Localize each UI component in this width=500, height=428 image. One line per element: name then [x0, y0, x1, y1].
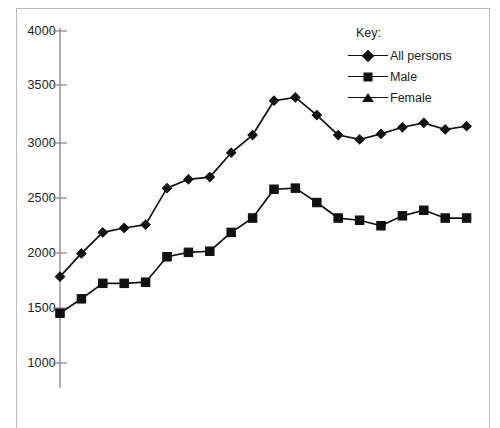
data-point-marker — [56, 309, 64, 317]
data-point-marker — [355, 216, 363, 224]
data-point-marker — [184, 175, 193, 184]
data-point-marker — [441, 214, 449, 222]
data-point-marker — [99, 279, 107, 287]
data-point-marker — [248, 214, 256, 222]
legend-item-label: Female — [390, 91, 432, 105]
data-point-marker — [420, 206, 428, 214]
legend-item-label: All persons — [390, 49, 452, 63]
data-point-marker — [184, 248, 192, 256]
data-point-marker — [270, 185, 278, 193]
data-point-marker — [141, 278, 149, 286]
legend-item-all-persons[interactable]: All persons — [346, 46, 486, 65]
data-point-marker — [227, 228, 235, 236]
data-point-marker — [441, 125, 450, 134]
legend-item-label: Male — [390, 70, 417, 84]
series-line-male — [60, 188, 467, 313]
data-point-marker — [334, 214, 342, 222]
data-point-marker — [206, 247, 214, 255]
data-point-marker — [313, 198, 321, 206]
data-series-layer — [55, 93, 471, 318]
data-point-marker — [291, 184, 299, 192]
data-point-marker — [462, 122, 471, 131]
series-line-all-persons — [60, 97, 467, 276]
legend: Key: All persons Male Female — [346, 26, 486, 109]
data-point-marker — [141, 220, 150, 229]
data-point-marker — [120, 223, 129, 232]
legend-item-male[interactable]: Male — [346, 67, 486, 86]
data-point-marker — [462, 214, 470, 222]
data-point-marker — [163, 253, 171, 261]
data-point-marker — [398, 123, 407, 132]
data-point-marker — [376, 129, 385, 138]
data-point-marker — [269, 96, 278, 105]
data-point-marker — [377, 222, 385, 230]
triangle-marker-icon — [346, 91, 390, 105]
data-point-marker — [355, 135, 364, 144]
legend-item-female[interactable]: Female — [346, 88, 486, 107]
data-point-marker — [398, 212, 406, 220]
data-point-marker — [77, 295, 85, 303]
y-axis — [53, 28, 67, 388]
data-point-marker — [120, 279, 128, 287]
data-point-marker — [162, 184, 171, 193]
legend-title: Key: — [356, 26, 486, 40]
data-point-marker — [419, 118, 428, 127]
square-marker-icon — [346, 70, 390, 84]
diamond-marker-icon — [346, 49, 390, 63]
